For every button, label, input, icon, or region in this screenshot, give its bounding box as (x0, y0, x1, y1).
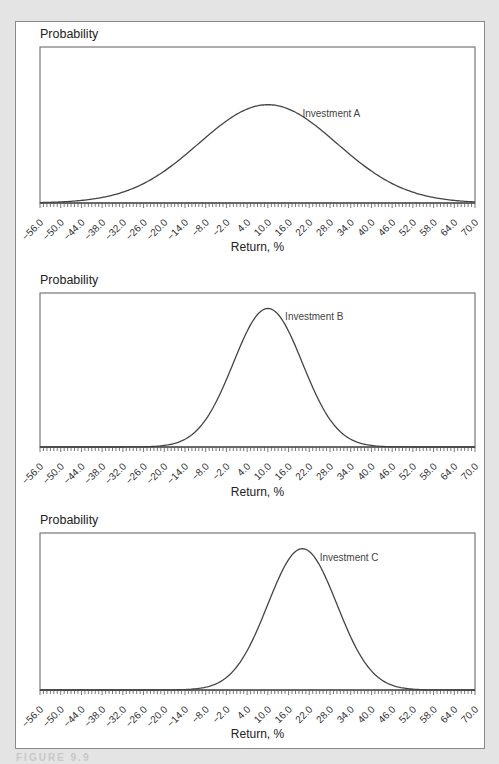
svg-text:34.0: 34.0 (335, 703, 357, 725)
svg-text:−20.0: −20.0 (144, 703, 170, 729)
svg-text:58.0: 58.0 (417, 703, 439, 725)
svg-text:40.0: 40.0 (355, 703, 377, 725)
svg-text:−26.0: −26.0 (123, 703, 149, 729)
svg-text:4.0: 4.0 (235, 703, 253, 721)
svg-text:28.0: 28.0 (314, 703, 336, 725)
svg-text:−50.0: −50.0 (40, 703, 66, 729)
x-tick-labels: −56.0−50.0−44.0−38.0−32.0−26.0−20.0−14.0… (20, 703, 481, 729)
svg-text:−32.0: −32.0 (103, 703, 129, 729)
svg-text:22.0: 22.0 (293, 703, 315, 725)
x-axis-label: Return, % (0, 727, 499, 741)
svg-text:52.0: 52.0 (397, 703, 419, 725)
svg-text:−44.0: −44.0 (61, 703, 87, 729)
svg-text:−14.0: −14.0 (165, 703, 191, 729)
series-annotation: Investment C (320, 552, 379, 563)
svg-text:−38.0: −38.0 (82, 703, 108, 729)
svg-text:70.0: 70.0 (459, 703, 481, 725)
svg-text:−2.0: −2.0 (210, 703, 232, 725)
plot-frame (40, 533, 475, 690)
svg-text:−8.0: −8.0 (189, 703, 211, 725)
svg-text:−56.0: −56.0 (20, 703, 46, 729)
plot-area: −56.0−50.0−44.0−38.0−32.0−26.0−20.0−14.0… (0, 0, 499, 764)
svg-text:64.0: 64.0 (438, 703, 460, 725)
svg-text:46.0: 46.0 (376, 703, 398, 725)
figure-caption: FIGURE 9.9 (16, 752, 90, 763)
svg-text:16.0: 16.0 (272, 703, 294, 725)
svg-text:10.0: 10.0 (252, 703, 274, 725)
